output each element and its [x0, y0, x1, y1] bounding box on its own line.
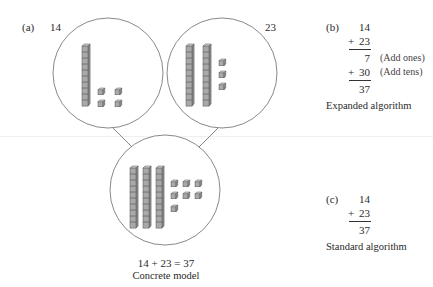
- add-ones-note: (Add ones): [380, 52, 425, 64]
- expanded-row-sum: 37: [346, 83, 370, 95]
- unit-cube-icon: [171, 205, 178, 212]
- unit-cube-icon: [98, 100, 105, 107]
- unit-cube-icon: [219, 71, 226, 78]
- unit-cube-icon: [115, 100, 122, 107]
- equation-label: 14 + 23 = 37: [128, 257, 204, 269]
- unit-cube-icon: [98, 88, 105, 95]
- add-tens-note: (Add tens): [380, 66, 423, 78]
- panel-c-tag: (c): [326, 193, 338, 205]
- unit-cube-icon: [171, 180, 178, 187]
- panel-b-tag: (b): [326, 21, 339, 33]
- tens-rod-icon: [143, 166, 151, 228]
- expanded-row-addend2: 23: [346, 35, 370, 47]
- unit-cube-icon: [195, 180, 202, 187]
- addend1-label: 14: [50, 21, 61, 33]
- expanded-rule-1: [349, 49, 371, 50]
- unit-cube-icon: [115, 88, 122, 95]
- standard-row-sum: 37: [346, 224, 370, 236]
- standard-rule: [349, 221, 371, 222]
- expanded-algorithm-caption: Expanded algorithm: [326, 100, 411, 112]
- tens-rod-icon: [130, 166, 138, 228]
- tens-rod-icon: [203, 44, 211, 106]
- expanded-row-addend1: 14: [346, 21, 370, 33]
- expanded-row-tens: 30: [346, 66, 370, 78]
- unit-cube-icon: [219, 83, 226, 90]
- standard-row-addend1: 14: [346, 193, 370, 205]
- standard-row-addend2: 23: [346, 207, 370, 219]
- tens-rod-icon: [156, 166, 164, 228]
- panel-a-tag: (a): [22, 21, 34, 33]
- tens-rod-icon: [82, 44, 90, 106]
- unit-cube-icon: [219, 59, 226, 66]
- concrete-model-caption: Concrete model: [120, 270, 212, 282]
- unit-cube-icon: [195, 192, 202, 199]
- model-circle-37: [110, 135, 220, 245]
- tens-rod-icon: [186, 44, 194, 106]
- expanded-row-ones: 7: [346, 52, 370, 64]
- addend2-label: 23: [265, 21, 276, 33]
- model-circle-14: [53, 18, 163, 128]
- expanded-rule-2: [349, 80, 371, 81]
- unit-cube-icon: [183, 180, 190, 187]
- unit-cube-icon: [183, 192, 190, 199]
- standard-algorithm-caption: Standard algorithm: [326, 241, 407, 253]
- unit-cube-icon: [171, 192, 178, 199]
